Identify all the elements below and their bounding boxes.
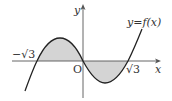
function-label: y=f(x): [126, 16, 161, 29]
x-axis-label: x: [155, 63, 162, 76]
function-graph: y x O −√3 √3 y=f(x): [0, 0, 172, 101]
y-axis-label: y: [73, 4, 81, 17]
root-label-positive: √3: [126, 63, 140, 76]
root-label-negative: −√3: [12, 48, 35, 61]
origin-label: O: [73, 63, 82, 76]
